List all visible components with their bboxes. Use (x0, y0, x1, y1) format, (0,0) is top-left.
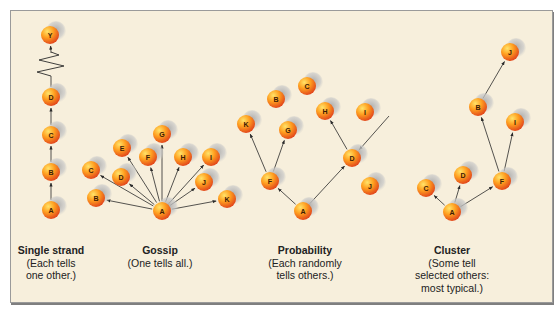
node-label: A (159, 208, 164, 215)
caption-title: Single strand (0, 244, 111, 257)
node-label: D (118, 174, 123, 181)
node-cluster-A: A (443, 198, 468, 221)
node-gossip-G: G (153, 120, 178, 143)
node-label: C (88, 167, 93, 174)
node-label: I (210, 154, 212, 161)
node-label: F (146, 154, 151, 161)
node-cluster-I: I (506, 108, 531, 131)
node-gossip-H: H (174, 143, 199, 166)
node-cluster-B: B (469, 93, 494, 116)
node-label: A (449, 209, 454, 216)
node-label: H (180, 154, 185, 161)
node-label: I (364, 109, 366, 116)
arrow-probability-incoming-to-D (359, 116, 389, 150)
node-cluster-J: J (501, 38, 526, 61)
node-label: C (304, 83, 309, 90)
arrow-gossip-A-to-H (166, 167, 179, 201)
caption-description: (One tells all.) (100, 257, 220, 270)
node-gossip-I: I (202, 143, 227, 166)
node-label: J (202, 179, 206, 186)
node-label: D (48, 94, 53, 101)
caption-gossip: Gossip(One tells all.) (100, 244, 220, 269)
arrow-probability-A-to-D (310, 166, 345, 204)
arrow-cluster-B-to-J (483, 62, 504, 99)
node-probability-J: J (361, 172, 386, 195)
node-cluster-C: C (417, 174, 442, 197)
node-probability-H: H (316, 97, 341, 120)
node-label: B (93, 195, 98, 202)
node-label: E (120, 145, 125, 152)
arrow-probability-F-to-G (273, 140, 284, 171)
caption-title: Gossip (100, 244, 220, 257)
node-label: J (368, 183, 372, 190)
caption-title: Probability (245, 244, 365, 257)
node-probability-G: G (279, 116, 304, 139)
node-probability-C: C (298, 72, 323, 95)
node-gossip-A: A (153, 197, 178, 220)
node-label: H (322, 108, 327, 115)
node-label: B (475, 104, 480, 111)
caption-cluster: Cluster(Some tell selected others: most … (392, 244, 512, 294)
node-single-strand-Y: Y (41, 21, 66, 44)
caption-description: (Each randomly tells others.) (245, 257, 365, 282)
node-probability-F: F (261, 167, 286, 190)
node-label: B (273, 96, 278, 103)
node-label: G (285, 127, 291, 134)
arrow-gossip-A-to-F (151, 168, 160, 202)
node-label: A (48, 207, 53, 214)
node-probability-D: D (343, 144, 368, 167)
node-label: D (460, 172, 465, 179)
node-label: K (224, 196, 229, 203)
node-probability-I: I (356, 98, 381, 121)
node-label: F (268, 178, 273, 185)
node-label: D (349, 155, 354, 162)
node-label: C (48, 132, 53, 139)
node-label: B (48, 169, 53, 176)
node-single-strand-D: D (42, 83, 67, 106)
node-cluster-F: F (493, 167, 518, 190)
node-cluster-D: D (454, 161, 479, 184)
node-label: A (300, 208, 305, 215)
node-gossip-D: D (112, 163, 137, 186)
arrow-probability-A-to-F (278, 188, 295, 204)
node-gossip-J: J (195, 168, 220, 191)
node-single-strand-C: C (42, 121, 67, 144)
node-gossip-B: B (87, 184, 112, 207)
node-gossip-E: E (113, 134, 138, 157)
arrow-gossip-A-to-K (172, 201, 216, 209)
arrow-cluster-F-to-I (504, 133, 512, 171)
node-probability-K: K (237, 110, 262, 133)
node-label: J (508, 49, 512, 56)
arrow-cluster-A-to-C (434, 195, 445, 205)
arrow-probability-D-to-H (330, 121, 347, 150)
node-gossip-C: C (82, 156, 107, 179)
arrow-probability-F-to-K (250, 134, 266, 172)
caption-description: (Each tells one other.) (0, 257, 111, 282)
caption-description: (Some tell selected others: most typical… (392, 257, 512, 295)
node-label: I (514, 119, 516, 126)
node-probability-B: B (267, 85, 292, 108)
caption-probability: Probability(Each randomly tells others.) (245, 244, 365, 282)
node-probability-A: A (294, 197, 319, 220)
node-single-strand-B: B (42, 158, 67, 181)
caption-title: Cluster (392, 244, 512, 257)
node-label: Y (48, 32, 53, 39)
node-label: G (159, 131, 165, 138)
node-label: K (243, 121, 248, 128)
node-gossip-K: K (218, 185, 243, 208)
node-single-strand-A: A (42, 196, 67, 219)
caption-single-strand: Single strand(Each tells one other.) (0, 244, 111, 282)
nodes-layer: YDCBAABCDEFGHIJKABCDFGHIJKACDFBIJ (41, 21, 531, 221)
arrow-cluster-F-to-B (481, 117, 499, 171)
break-zigzag-icon (37, 52, 64, 76)
node-label: C (423, 185, 428, 192)
node-gossip-F: F (139, 143, 164, 166)
node-label: F (500, 178, 505, 185)
